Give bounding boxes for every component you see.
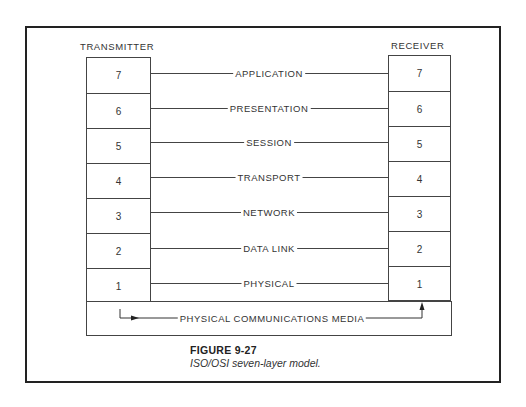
arrow-right-icon [131, 316, 139, 321]
media-path-arrows [0, 0, 526, 407]
figure-caption: ISO/OSI seven-layer model. [190, 357, 321, 369]
media-label: PHYSICAL COMMUNICATIONS MEDIA [178, 313, 366, 324]
arrow-up-icon [420, 302, 425, 310]
figure-number: FIGURE 9-27 [190, 344, 257, 356]
